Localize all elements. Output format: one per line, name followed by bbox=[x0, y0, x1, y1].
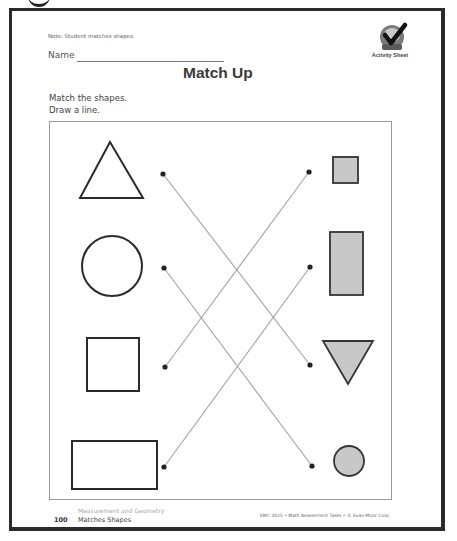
footer-copyright: EMC 3025 • Math Assessment Tasks • © Eva… bbox=[260, 513, 390, 518]
dot-left-1[interactable] bbox=[160, 171, 165, 176]
left-square-shape bbox=[87, 338, 139, 391]
left-triangle-shape bbox=[80, 142, 143, 198]
page-number: 100 bbox=[54, 516, 68, 524]
footer-topic: Matches Shapes bbox=[78, 516, 131, 524]
match-line-square bbox=[165, 172, 309, 367]
dot-right-1[interactable] bbox=[306, 169, 311, 174]
dot-right-4[interactable] bbox=[309, 463, 314, 468]
match-lines bbox=[163, 172, 312, 467]
left-circle-shape bbox=[82, 236, 142, 296]
dot-right-2[interactable] bbox=[307, 264, 312, 269]
dot-left-3[interactable] bbox=[162, 364, 167, 369]
left-rectangle-shape bbox=[72, 441, 157, 489]
dot-left-4[interactable] bbox=[161, 464, 166, 469]
right-square-shape bbox=[333, 157, 358, 183]
footer-category: Measurement and Geometry bbox=[78, 507, 164, 514]
right-triangle-shape bbox=[323, 341, 373, 384]
right-circle-shape bbox=[334, 446, 364, 476]
right-rectangle-shape bbox=[330, 232, 363, 295]
dot-left-2[interactable] bbox=[161, 265, 166, 270]
dot-right-3[interactable] bbox=[307, 362, 312, 367]
matching-activity-drawing bbox=[0, 0, 457, 541]
